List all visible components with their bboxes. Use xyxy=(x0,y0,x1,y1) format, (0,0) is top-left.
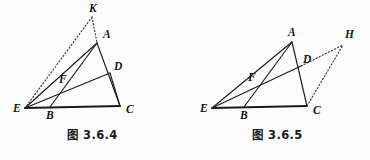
segment-AC xyxy=(292,42,307,106)
vertex-label-f: F xyxy=(247,71,256,83)
vertex-label-e: E xyxy=(199,102,208,114)
geometry-diagram-3-6-5: ABCDEFH xyxy=(185,0,370,128)
vertex-label-b: B xyxy=(45,109,54,121)
vertex-label-c: C xyxy=(126,103,134,115)
geometry-diagram-3-6-4: ABCDEFK xyxy=(0,0,185,128)
vertex-label-a: A xyxy=(102,28,111,40)
segment-KA-dotted xyxy=(92,17,97,43)
figure-panel-3-6-4: ABCDEFK 图 3.6.4 xyxy=(0,0,185,160)
segment-ED xyxy=(212,66,301,108)
vertex-label-f: F xyxy=(58,73,67,85)
vertex-label-k: K xyxy=(88,2,98,14)
segment-EC-base xyxy=(25,106,120,108)
vertex-label-d: D xyxy=(302,53,312,65)
segment-DC xyxy=(110,73,120,106)
segment-AB xyxy=(50,43,97,107)
vertex-label-c: C xyxy=(313,104,321,116)
vertex-label-h: H xyxy=(344,28,355,40)
segment-EC-base xyxy=(212,106,307,108)
figure-caption-3-6-4: 图 3.6.4 xyxy=(0,126,185,142)
figure-caption-3-6-5: 图 3.6.5 xyxy=(185,126,370,142)
figure-sheet: ABCDEFK 图 3.6.4 ABCDEFH 图 3.6.5 xyxy=(0,0,370,160)
vertex-label-a: A xyxy=(287,26,296,38)
vertex-label-e: E xyxy=(12,102,21,114)
vertex-label-b: B xyxy=(239,109,248,121)
vertex-label-d: D xyxy=(113,60,123,72)
figure-panel-3-6-5: ABCDEFH 图 3.6.5 xyxy=(185,0,370,160)
